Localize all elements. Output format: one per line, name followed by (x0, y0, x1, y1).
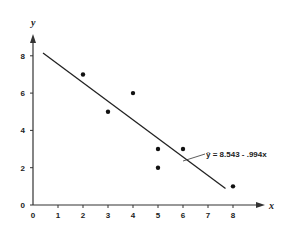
x-tick-label: 1 (56, 211, 61, 220)
data-point (81, 72, 85, 76)
x-ticks: 012345678 (31, 205, 236, 220)
y-tick-label: 0 (21, 201, 26, 210)
y-tick-label: 6 (21, 89, 26, 98)
y-axis-label: y (30, 17, 36, 28)
x-tick-label: 7 (206, 211, 211, 220)
y-tick-label: 8 (21, 52, 26, 61)
regression-equation: ŷ = 8.543 - .994x (206, 150, 267, 159)
x-tick-label: 5 (156, 211, 161, 220)
data-point (231, 184, 235, 188)
x-tick-label: 8 (231, 211, 236, 220)
regression-line (43, 53, 226, 188)
equation-leader-line (183, 154, 205, 161)
axes (30, 34, 265, 208)
y-ticks: 02468 (21, 52, 33, 210)
x-tick-label: 4 (131, 211, 136, 220)
y-axis-arrow-icon (30, 34, 36, 43)
data-point (156, 166, 160, 170)
data-point (106, 110, 110, 114)
x-tick-label: 6 (181, 211, 186, 220)
data-point (156, 147, 160, 151)
x-axis-label: x (268, 200, 274, 211)
data-point (131, 91, 135, 95)
regression-line-path (43, 53, 226, 188)
x-tick-label: 2 (81, 211, 86, 220)
y-tick-label: 4 (21, 126, 26, 135)
scatter-chart: 012345678 02468 x y ŷ = 8.543 - .994x (0, 0, 285, 230)
x-axis-arrow-icon (256, 202, 265, 208)
y-tick-label: 2 (21, 164, 26, 173)
data-points (81, 72, 235, 188)
x-tick-label: 3 (106, 211, 111, 220)
x-tick-label: 0 (31, 211, 36, 220)
data-point (181, 147, 185, 151)
